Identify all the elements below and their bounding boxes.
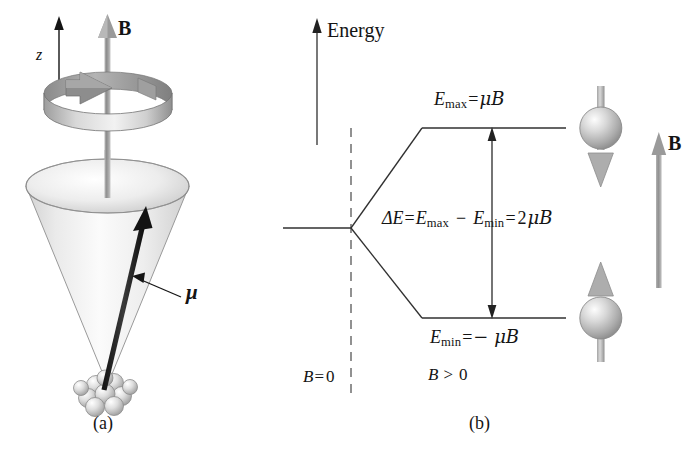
splitting-minus: − <box>449 208 473 228</box>
upper-level-label: Emax=μB <box>434 90 504 111</box>
emax-value: μB <box>479 88 504 109</box>
splitting-equals-1: = <box>404 208 416 228</box>
field-arrow-a-inner <box>105 150 111 198</box>
delta-e-symbol: ΔE <box>382 208 404 228</box>
bzero-symbol: B <box>303 367 313 386</box>
emax-symbol: E <box>434 89 445 109</box>
field-label-a: B <box>118 18 132 38</box>
splitting-term2-subscript: min <box>484 216 504 230</box>
spin-up-sphere <box>580 262 622 362</box>
spin-down-sphere <box>580 86 622 187</box>
splitting-result: μB <box>528 207 553 228</box>
figure-graphics <box>0 0 696 461</box>
bpos-relation: > <box>438 365 458 384</box>
figure-root: B z μ (a) Energy Emax=μB Emin=− μB ΔE=Em… <box>0 0 696 461</box>
bzero-value: 0 <box>325 367 336 386</box>
emax-subscript: max <box>445 97 467 111</box>
panel-b-caption: (b) <box>469 414 490 432</box>
bpos-symbol: B <box>428 365 438 384</box>
splitting-term1-subscript: max <box>427 216 449 230</box>
field-arrow-b <box>652 132 667 288</box>
energy-axis-arrow <box>312 18 321 145</box>
region-label-positive-field: B>0 <box>428 366 468 383</box>
lower-level-label: Emin=− μB <box>430 328 519 349</box>
lower-branch <box>351 228 422 318</box>
splitting-term2-symbol: E <box>473 208 484 228</box>
field-label-b: B <box>668 133 681 153</box>
splitting-equation: ΔE=Emax−Emin=2μB <box>382 209 552 230</box>
magnetic-moment-label: μ <box>186 282 198 303</box>
energy-axis-label: Energy <box>327 20 384 40</box>
emin-symbol: E <box>430 327 441 347</box>
bzero-relation: = <box>313 367 325 386</box>
emin-value: − μB <box>473 326 519 347</box>
bpos-value: 0 <box>458 365 469 384</box>
panel-a-graphics <box>26 14 189 417</box>
panel-a-caption: (a) <box>93 414 113 432</box>
emin-subscript: min <box>441 335 461 349</box>
emax-relation: = <box>467 89 479 109</box>
region-label-zero-field: B=0 <box>303 368 335 385</box>
z-axis-label: z <box>36 47 42 63</box>
splitting-coefficient: 2 <box>517 208 528 228</box>
emin-relation: = <box>461 327 473 347</box>
splitting-equals-2: = <box>504 208 516 228</box>
splitting-term1-symbol: E <box>416 208 427 228</box>
